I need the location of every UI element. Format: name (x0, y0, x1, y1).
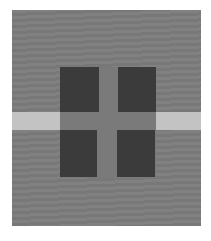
dark-square-bottom-right (117, 130, 155, 177)
dark-square-top-left (60, 67, 99, 112)
dark-square-bottom-left (60, 130, 97, 177)
gray-field (12, 10, 201, 226)
dark-square-top-right (118, 67, 156, 112)
